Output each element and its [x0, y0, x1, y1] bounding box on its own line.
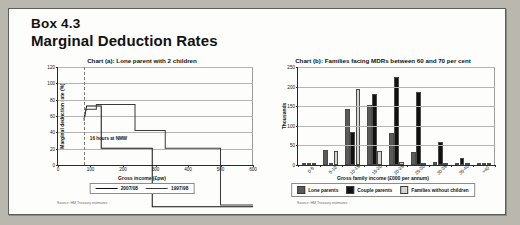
bar[interactable] [394, 77, 399, 165]
bar[interactable] [345, 109, 350, 165]
page-title: Marginal Deduction Rates [31, 32, 218, 49]
bar[interactable] [372, 94, 377, 165]
chart-a-y-tick-label: 100 [47, 81, 55, 86]
bar[interactable] [389, 133, 394, 165]
chart-b-bars [298, 67, 495, 165]
chart-b-x-tick-label: 0-5 [307, 166, 315, 174]
bar[interactable] [377, 151, 382, 166]
legend-item-families-without-children[interactable]: Families without children [400, 186, 469, 194]
box-number: Box 4.3 [31, 16, 80, 31]
chart-b-x-tickmark [451, 165, 452, 167]
chart-b-x-tick-label: 15-20 [370, 164, 382, 176]
chart-b-x-tick-label: 25-30 [414, 164, 426, 176]
legend-item-2007-08[interactable]: 2007/08 [96, 186, 138, 191]
chart-a-legend: 2007/081997/98 [90, 183, 195, 194]
chart-b-x-tickmark [342, 165, 343, 167]
legend-line-swatch [146, 188, 168, 189]
chart-b-x-tick-label: >40 [481, 165, 490, 174]
chart-b-x-tickmark [473, 165, 474, 167]
bar[interactable] [477, 163, 482, 165]
bar[interactable] [367, 105, 372, 165]
chart-b-y-tickmark [296, 67, 298, 68]
bar-group [407, 67, 429, 165]
chart-b-y-tickmark [296, 145, 298, 146]
chart-b-x-tick-label: 35-40 [458, 164, 470, 176]
bar[interactable] [460, 158, 465, 165]
legend-color-swatch [346, 186, 354, 194]
legend-item-couple-parents[interactable]: Couple parents [346, 186, 392, 194]
chart-b-x-tick-label: 30-35 [436, 164, 448, 176]
chart-b-x-tickmark [386, 165, 387, 167]
chart-b-title: Chart (b): Families facing MDRs between … [267, 57, 499, 64]
bar[interactable] [455, 163, 460, 165]
chart-b-x-tick-label: 5-10 [328, 165, 338, 175]
chart-b-source: Source: HM Treasury estimates [297, 201, 347, 205]
chart-a-y-tick-label: 0 [52, 163, 55, 168]
legend-item-lone-parents[interactable]: Lone parents [297, 186, 338, 194]
legend-color-swatch [297, 186, 305, 194]
chart-a-y-tick-label: 60 [50, 114, 55, 119]
chart-b-x-tickmark [364, 165, 365, 167]
legend-color-swatch [400, 186, 408, 194]
chart-b-x-tickmark [407, 165, 408, 167]
chart-a-source: Source: HM Treasury estimates [57, 201, 107, 205]
bar-group [298, 67, 320, 165]
chart-b-y-tickmark [296, 126, 298, 127]
legend-label: 1997/98 [171, 186, 188, 191]
chart-b-y-tickmark [296, 106, 298, 107]
bar-group [320, 67, 342, 165]
chart-b-gridline [298, 87, 495, 88]
chart-b-x-tickmark [320, 165, 321, 167]
bar-group [386, 67, 408, 165]
chart-a-nmw-label: 16 hours at NMW [90, 136, 127, 141]
bar[interactable] [433, 162, 438, 165]
bar-group [364, 67, 386, 165]
bar-group [451, 67, 473, 165]
chart-b-x-tickmark [298, 165, 299, 167]
legend-label: 2007/08 [121, 186, 138, 191]
chart-b-plot-area: 0501001502002500-55-1010-1515-2020-2525-… [297, 67, 495, 166]
chart-b-y-tick-label: 150 [287, 104, 295, 109]
chart-a-x-axis-label: Gross income (£pw) [27, 175, 257, 181]
chart-a-y-tick-label: 80 [50, 97, 55, 102]
chart-b-y-tick-label: 0 [292, 163, 295, 168]
chart-b: Chart (b): Families facing MDRs between … [267, 57, 499, 209]
chart-b-x-axis-label: Gross family income (£000 per annum) [267, 175, 499, 181]
chart-a-title: Chart (a): Lone parent with 2 children [27, 57, 257, 64]
chart-b-x-tick-label: 10-15 [349, 164, 361, 176]
bar[interactable] [312, 163, 317, 165]
chart-b-y-tick-label: 100 [287, 123, 295, 128]
chart-b-y-tick-label: 200 [287, 84, 295, 89]
chart-b-y-tick-label: 50 [290, 143, 295, 148]
legend-label: Families without children [411, 188, 469, 193]
chart-a-plot-area: 020406080100120010020030040050060016 hou… [57, 67, 253, 166]
chart-b-y-tick-label: 250 [287, 65, 295, 70]
chart-a-nmw-marker [84, 67, 85, 165]
bar[interactable] [350, 132, 355, 165]
chart-b-x-tick-label: 20-25 [392, 164, 404, 176]
bar-group [342, 67, 364, 165]
legend-label: Couple parents [357, 188, 392, 193]
chart-b-legend: Lone parentsCouple parentsFamilies witho… [291, 183, 475, 197]
chart-b-gridline [298, 126, 495, 127]
chart-b-x-tickmark [429, 165, 430, 167]
bar-group [473, 67, 495, 165]
chart-b-gridline [298, 145, 495, 146]
chart-b-gridline [298, 67, 495, 68]
bar[interactable] [411, 152, 416, 165]
legend-item-1997-98[interactable]: 1997/98 [146, 186, 188, 191]
bar[interactable] [416, 92, 421, 165]
bar[interactable] [302, 163, 307, 165]
chart-b-x-tickmark [495, 165, 496, 167]
chart-a-y-tick-label: 40 [50, 130, 55, 135]
chart-b-y-tickmark [296, 87, 298, 88]
bar[interactable] [323, 150, 328, 165]
legend-line-swatch [96, 188, 118, 189]
box-panel: Box 4.3 Marginal Deduction Rates Chart (… [8, 8, 506, 215]
chart-a: Chart (a): Lone parent with 2 children M… [27, 57, 257, 209]
chart-a-y-tick-label: 20 [50, 146, 55, 151]
bar[interactable] [334, 151, 339, 165]
bar[interactable] [487, 163, 492, 165]
bar[interactable] [356, 89, 361, 165]
chart-b-gridline [298, 106, 495, 107]
